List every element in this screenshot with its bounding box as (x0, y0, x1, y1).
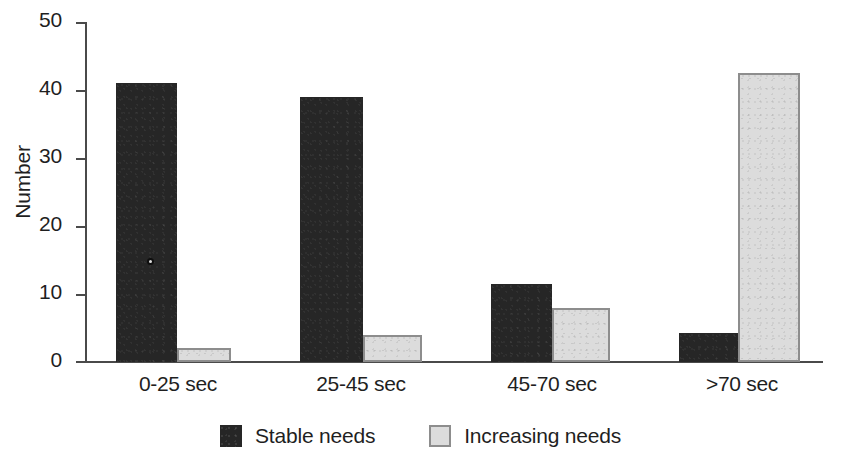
legend-item-stable-needs: Stable needs (220, 424, 375, 448)
legend-label-increasing-needs: Increasing needs (464, 424, 621, 448)
y-tick-mark-50 (76, 22, 85, 24)
scan-artifact-speck (147, 258, 154, 265)
y-tick-label-10: 10 (2, 280, 62, 304)
chart-legend: Stable needs Increasing needs (0, 424, 841, 448)
y-tick-mark-0 (76, 361, 85, 363)
legend-swatch-light-square-icon (429, 425, 451, 447)
bar-increasing-25-45-sec (363, 335, 422, 362)
bar-increasing-45-70-sec (552, 308, 610, 362)
x-tick-label-3: >70 sec (652, 372, 832, 396)
x-tick-label-1: 25-45 sec (271, 372, 451, 396)
legend-item-increasing-needs: Increasing needs (429, 424, 621, 448)
y-tick-mark-10 (76, 294, 85, 296)
bar-chart: 50 40 30 20 10 0 Number 0-25 sec 25-45 s… (0, 0, 841, 471)
x-tick-label-0: 0-25 sec (88, 372, 268, 396)
bar-increasing-0-25-sec (177, 348, 231, 362)
x-tick-label-2: 45-70 sec (462, 372, 642, 396)
y-axis-title: Number (11, 117, 35, 247)
bar-stable-0-25-sec (116, 83, 177, 362)
y-tick-label-40: 40 (2, 76, 62, 100)
bar-stable-25-45-sec (300, 97, 363, 362)
plot-area (85, 22, 823, 362)
bar-stable-over-70-sec (679, 333, 738, 362)
legend-swatch-dark-square-icon (220, 425, 242, 447)
y-tick-label-50: 50 (2, 8, 62, 32)
y-tick-mark-30 (76, 158, 85, 160)
y-tick-mark-40 (76, 90, 85, 92)
bar-stable-45-70-sec (491, 284, 552, 362)
y-tick-mark-20 (76, 226, 85, 228)
y-tick-label-0: 0 (2, 348, 62, 372)
bar-increasing-over-70-sec (738, 73, 800, 362)
legend-label-stable-needs: Stable needs (255, 424, 375, 448)
